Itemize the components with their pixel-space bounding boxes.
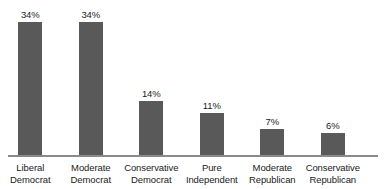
bar-group-moderate-republican[interactable]: 7% [242, 0, 303, 157]
bar-column: 14% [121, 0, 182, 157]
bar-rect[interactable] [139, 101, 163, 157]
bar-group-conservative-democrat[interactable]: 14% [121, 0, 182, 157]
axis-label-conservative-republican: Conservative Republican [303, 160, 364, 189]
bar-group-liberal-democrat[interactable]: 34% [0, 0, 61, 157]
axis-label-line1: Liberal [0, 162, 61, 174]
axis-label-line1: Conservative [303, 162, 364, 174]
bar-column: 7% [242, 0, 303, 157]
bar-rect[interactable] [200, 113, 224, 157]
bar-value-label: 34% [21, 9, 40, 20]
bar-value-label: 7% [265, 116, 279, 127]
axis-label-line1: Pure [182, 162, 243, 174]
bar-column: 34% [61, 0, 122, 157]
axis-label-line1: Moderate [61, 162, 122, 174]
bar-value-label: 11% [203, 100, 221, 111]
x-axis-line [8, 155, 378, 157]
axis-label-line2: Democrat [121, 174, 182, 186]
axis-label-line1: Moderate [242, 162, 303, 174]
axis-label-line1: Conservative [121, 162, 182, 174]
bar-chart: 34% 34% 14% 11% 7% [0, 0, 392, 189]
axis-label-line2: Republican [303, 174, 364, 186]
axis-label-liberal-democrat: Liberal Democrat [0, 160, 61, 189]
bar-rect[interactable] [18, 22, 42, 157]
axis-label-line2: Democrat [61, 174, 122, 186]
axis-label-conservative-democrat: Conservative Democrat [121, 160, 182, 189]
bar-value-label: 34% [81, 9, 100, 20]
axis-label-line2: Independent [182, 174, 243, 186]
bar-group-moderate-democrat[interactable]: 34% [61, 0, 122, 157]
bar-column: 6% [303, 0, 364, 157]
axis-label-moderate-republican: Moderate Republican [242, 160, 303, 189]
bar-column: 11% [182, 0, 243, 157]
axis-label-pure-independent: Pure Independent [182, 160, 243, 189]
bar-column: 34% [0, 0, 61, 157]
axis-label-line2: Democrat [0, 174, 61, 186]
bar-rect[interactable] [260, 129, 284, 157]
bar-group-conservative-republican[interactable]: 6% [303, 0, 364, 157]
bar-group-pure-independent[interactable]: 11% [182, 0, 243, 157]
x-axis-labels: Liberal Democrat Moderate Democrat Conse… [0, 160, 392, 189]
bar-rect[interactable] [321, 133, 345, 157]
bar-value-label: 14% [142, 88, 161, 99]
bar-value-label: 6% [326, 120, 340, 131]
axis-label-moderate-democrat: Moderate Democrat [61, 160, 122, 189]
axis-label-line2: Republican [242, 174, 303, 186]
plot-area: 34% 34% 14% 11% 7% [0, 0, 392, 157]
bar-rect[interactable] [79, 22, 103, 157]
